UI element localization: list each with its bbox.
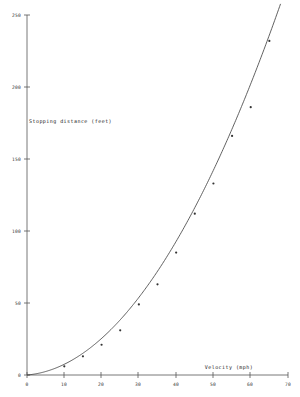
- data-point: [119, 329, 121, 331]
- stopping-distance-chart: 0 50 100 150 200 250 0 10 20 30 40: [0, 0, 300, 397]
- data-point: [194, 213, 196, 215]
- y-tick-label-200: 200: [12, 85, 21, 90]
- x-tick-label-10: 10: [61, 382, 67, 387]
- data-point: [138, 303, 140, 305]
- data-point: [175, 252, 177, 254]
- data-point: [156, 283, 158, 285]
- data-point-group: [63, 40, 270, 368]
- data-point: [250, 106, 252, 108]
- x-tick-label-20: 20: [98, 382, 104, 387]
- y-axis-title: Stopping distance (feet): [29, 118, 112, 125]
- y-tick-label-250: 250: [12, 13, 21, 18]
- y-tick-label-150: 150: [12, 157, 21, 162]
- y-tick-label-0: 0: [18, 373, 21, 378]
- x-axis-title: Velocity (mph): [205, 364, 253, 371]
- x-tick-label-70: 70: [285, 382, 291, 387]
- y-tick-label-100: 100: [12, 229, 21, 234]
- x-axis-ticks: 0 10 20 30 40 50 60 70: [26, 372, 291, 387]
- x-tick-label-50: 50: [210, 382, 216, 387]
- data-point: [231, 135, 233, 137]
- x-tick-label-0: 0: [26, 382, 29, 387]
- data-point: [82, 355, 84, 357]
- data-point: [100, 344, 102, 346]
- x-tick-label-60: 60: [247, 382, 253, 387]
- data-point: [212, 182, 214, 184]
- chart-container: 0 50 100 150 200 250 0 10 20 30 40: [0, 0, 300, 397]
- x-tick-label-40: 40: [173, 382, 179, 387]
- x-tick-label-30: 30: [135, 382, 141, 387]
- data-point: [268, 40, 270, 42]
- y-tick-label-50: 50: [15, 301, 21, 306]
- fitted-curve: [27, 4, 281, 375]
- data-point: [63, 365, 65, 367]
